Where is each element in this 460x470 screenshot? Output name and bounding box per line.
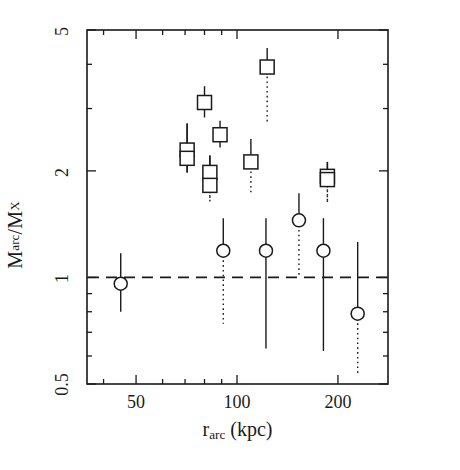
- xtick-label-50: 50: [101, 392, 171, 413]
- axis-ticks: [87, 30, 388, 384]
- x-axis-title-unit: (kpc): [225, 418, 272, 440]
- x-axis-title: rarc (kpc): [87, 418, 388, 443]
- error-bars: [121, 48, 358, 375]
- data-markers: [114, 60, 364, 320]
- ytick-label-5: 5: [52, 12, 73, 52]
- y-axis-title-sub-arc: arc: [7, 235, 23, 251]
- y-axis-title-sub-x: X: [7, 201, 23, 211]
- y-axis-title-slash: /: [4, 229, 27, 235]
- xtick-label-100: 100: [202, 392, 272, 413]
- y-axis-title-m2: M: [4, 211, 27, 229]
- x-axis-title-sub-arc: arc: [209, 427, 225, 442]
- plot-frame: [87, 30, 388, 384]
- y-axis-title-m1: M: [4, 251, 27, 269]
- xtick-label-200: 200: [303, 392, 373, 413]
- figure-panel: 5 2 1 0.5 50 100 200 Marc/MX rarc (kpc): [0, 0, 460, 470]
- ytick-label-0.5: 0.5: [52, 365, 73, 405]
- y-axis-title: Marc/MX: [0, 0, 30, 470]
- ytick-label-1: 1: [52, 259, 73, 299]
- ytick-label-2: 2: [52, 153, 73, 193]
